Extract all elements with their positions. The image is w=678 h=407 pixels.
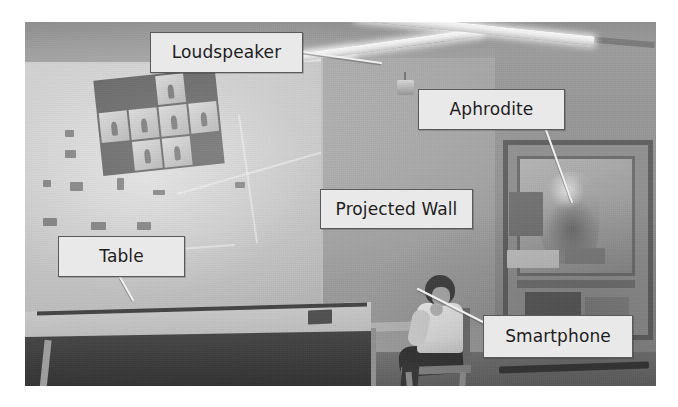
grid-cell bbox=[102, 142, 133, 174]
right-wall-sign bbox=[507, 250, 559, 268]
callout-label-aphrodite: Aphrodite bbox=[450, 101, 534, 118]
loudspeaker-device bbox=[397, 80, 414, 95]
callout-smartphone[interactable]: Smartphone bbox=[483, 315, 633, 358]
grid-cell bbox=[125, 76, 156, 108]
chair-leg bbox=[458, 372, 466, 386]
display-case-shelf bbox=[517, 280, 635, 288]
grid-cell bbox=[155, 73, 186, 105]
callout-aphrodite[interactable]: Aphrodite bbox=[418, 89, 565, 130]
grid-cell bbox=[129, 108, 160, 140]
wall-marking bbox=[65, 130, 74, 137]
wall-marking bbox=[153, 190, 165, 195]
right-wall-panel bbox=[509, 192, 543, 236]
callout-label-smartphone: Smartphone bbox=[505, 328, 611, 345]
callout-table[interactable]: Table bbox=[58, 236, 185, 277]
grid-cell bbox=[158, 104, 189, 136]
grid-cell bbox=[99, 111, 130, 143]
wall-marking bbox=[65, 150, 76, 158]
wall-marking bbox=[43, 218, 57, 226]
callout-label-loudspeaker: Loudspeaker bbox=[172, 44, 281, 61]
person-hand-with-smartphone bbox=[430, 303, 443, 316]
wall-marking bbox=[43, 180, 51, 187]
callout-projected-wall[interactable]: Projected Wall bbox=[320, 189, 473, 229]
grid-cell bbox=[162, 136, 193, 168]
table-body bbox=[25, 331, 371, 386]
wall-marking bbox=[117, 178, 124, 190]
wall-marking bbox=[70, 182, 83, 191]
right-wall-sign-secondary bbox=[565, 248, 605, 264]
grid-cell bbox=[188, 101, 219, 133]
grid-cell bbox=[96, 79, 127, 111]
grid-cell bbox=[192, 132, 223, 164]
object-on-table bbox=[308, 310, 332, 325]
callout-loudspeaker[interactable]: Loudspeaker bbox=[150, 32, 303, 73]
callout-label-projected-wall: Projected Wall bbox=[336, 201, 458, 218]
grid-cell bbox=[185, 70, 216, 102]
annotated-figure: Loudspeaker Aphrodite Projected Wall Tab… bbox=[0, 0, 678, 407]
projected-photo-grid bbox=[93, 68, 224, 176]
wall-marking bbox=[235, 182, 245, 188]
callout-label-table: Table bbox=[99, 248, 143, 265]
grid-cell bbox=[132, 139, 163, 171]
wall-marking bbox=[137, 222, 151, 230]
side-desk-leg bbox=[371, 328, 376, 386]
wall-marking bbox=[91, 222, 106, 230]
